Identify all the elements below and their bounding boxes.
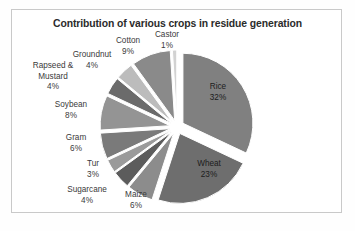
slice-label-sugarcane: Sugarcane 4% [58, 185, 116, 206]
pie-slice-rice [183, 53, 253, 153]
slice-label-sugarcane-pct: 4% [58, 196, 116, 207]
slice-label-tur-pct: 3% [76, 170, 110, 181]
slice-label-wheat-name: Wheat [190, 159, 228, 170]
slice-label-castor: Castor 1% [144, 30, 190, 51]
slice-label-rice: Rice 32% [201, 82, 235, 103]
slice-label-maize-pct: 6% [117, 201, 155, 212]
slice-label-rapseed-mustard-name: Rapseed & [22, 61, 84, 72]
slice-label-gram: Gram 6% [55, 133, 97, 154]
slice-label-soybean: Soybean 8% [44, 100, 98, 121]
slice-label-tur: Tur 3% [76, 159, 110, 180]
slice-label-rapseed-mustard-pct: 4% [22, 82, 84, 93]
slice-label-groundnut-name: Groundnut [62, 50, 122, 61]
pie-slices [100, 50, 253, 203]
slice-label-rice-name: Rice [201, 82, 235, 93]
slice-label-maize: Maize 6% [117, 190, 155, 211]
slice-label-rapseed-mustard: Rapseed & Mustard 4% [22, 61, 84, 93]
slice-label-rice-pct: 32% [201, 93, 235, 104]
chart-image: Contribution of various crops in residue… [0, 0, 355, 231]
slice-label-rapseed-mustard-name2: Mustard [22, 72, 84, 83]
slice-label-tur-name: Tur [76, 159, 110, 170]
slice-label-gram-name: Gram [55, 133, 97, 144]
slice-label-castor-name: Castor [144, 30, 190, 41]
slice-label-castor-pct: 1% [144, 41, 190, 52]
slice-label-sugarcane-name: Sugarcane [58, 185, 116, 196]
slice-label-cotton-name: Cotton [106, 36, 150, 47]
slice-label-soybean-pct: 8% [44, 111, 98, 122]
slice-label-gram-pct: 6% [55, 144, 97, 155]
slice-label-wheat-pct: 23% [190, 170, 228, 181]
slice-label-maize-name: Maize [117, 190, 155, 201]
slice-label-soybean-name: Soybean [44, 100, 98, 111]
slice-label-wheat: Wheat 23% [190, 159, 228, 180]
